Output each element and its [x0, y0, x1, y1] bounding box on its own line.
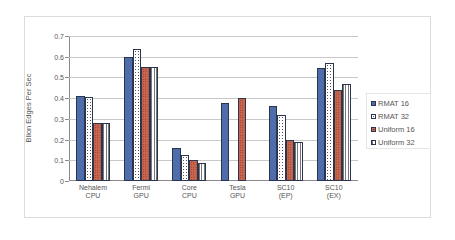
legend-swatch-icon [371, 114, 376, 119]
legend-label: Uniform 32 [378, 138, 415, 147]
y-axis [69, 36, 70, 181]
y-tick-label: 0.7 [54, 33, 64, 40]
legend-label: RMAT 16 [378, 99, 409, 108]
x-tick-label-line: Tesla [214, 184, 262, 192]
legend-item: Uniform 32 [371, 136, 430, 149]
y-tick-label: 0.2 [54, 136, 64, 143]
bar-rmat-16 [124, 57, 133, 181]
bar-rmat-32 [277, 115, 286, 181]
x-tick-label-line: Fermi [117, 184, 165, 192]
x-axis [69, 180, 358, 181]
y-tick [65, 119, 69, 120]
legend-item: Uniform 16 [371, 123, 430, 136]
bar-uniform-32 [294, 142, 303, 181]
bar-rmat-32 [181, 155, 190, 181]
y-tick [65, 160, 69, 161]
bar-uniform-16 [141, 67, 150, 181]
y-tick-label: 0.6 [54, 53, 64, 60]
bar-uniform-32 [198, 163, 207, 181]
gridline [69, 36, 358, 37]
gridline [69, 77, 358, 78]
y-tick [65, 140, 69, 141]
bar-uniform-32 [150, 67, 159, 181]
bar-uniform-32 [342, 84, 351, 181]
x-tick-label-line: Nehalem [69, 184, 117, 192]
legend-item: RMAT 16 [371, 97, 430, 110]
x-tick-label-line: (EP) [262, 192, 310, 200]
legend-swatch-icon [371, 140, 376, 145]
bar-uniform-16 [93, 123, 102, 181]
y-tick [65, 36, 69, 37]
y-tick-label: 0.1 [54, 157, 64, 164]
legend: RMAT 16RMAT 32Uniform 16Uniform 32 [366, 93, 431, 149]
y-tick [65, 181, 69, 182]
x-tick-label-line: Core [165, 184, 213, 192]
legend-item: RMAT 32 [371, 110, 430, 123]
bar-uniform-16 [238, 98, 247, 181]
x-tick-label-line: CPU [165, 192, 213, 200]
x-tick-label-line: SC10 [310, 184, 358, 192]
y-tick-label: 0.5 [54, 74, 64, 81]
bar-rmat-16 [221, 103, 230, 181]
legend-swatch-icon [371, 127, 376, 132]
y-tick-label: 0.4 [54, 95, 64, 102]
y-tick [65, 57, 69, 58]
y-axis-title: Blion Edges Per Sec [24, 74, 33, 143]
y-tick-label: 0 [60, 178, 64, 185]
x-tick-label: CoreCPU [165, 184, 213, 200]
x-tick-label-line: SC10 [262, 184, 310, 192]
gridline [69, 119, 358, 120]
x-tick-label-line: GPU [214, 192, 262, 200]
legend-label: RMAT 32 [378, 112, 409, 121]
gridline [69, 57, 358, 58]
y-tick [65, 77, 69, 78]
bar-rmat-32 [133, 49, 142, 181]
x-tick-label: NehalemCPU [69, 184, 117, 200]
x-tick-label: FermiGPU [117, 184, 165, 200]
gridline [69, 160, 358, 161]
bar-rmat-32 [325, 63, 334, 181]
x-tick-label: SC10(EX) [310, 184, 358, 200]
x-tick-label-line: GPU [117, 192, 165, 200]
x-tick-label-line: CPU [69, 192, 117, 200]
bar-rmat-16 [317, 68, 326, 181]
plot-area [69, 36, 358, 181]
y-tick [65, 98, 69, 99]
y-tick-label: 0.3 [54, 115, 64, 122]
legend-swatch-icon [371, 101, 376, 106]
gridline [69, 98, 358, 99]
bar-uniform-16 [189, 160, 198, 181]
bar-uniform-16 [286, 140, 295, 181]
bar-rmat-16 [76, 96, 85, 181]
x-tick-label: TeslaGPU [214, 184, 262, 200]
gridline [69, 140, 358, 141]
bar-uniform-32 [102, 123, 111, 181]
bar-rmat-16 [172, 148, 181, 181]
x-tick-label: SC10(EP) [262, 184, 310, 200]
bar-rmat-32 [85, 97, 94, 181]
bar-uniform-16 [334, 90, 343, 181]
legend-label: Uniform 16 [378, 125, 415, 134]
x-tick-label-line: (EX) [310, 192, 358, 200]
bar-rmat-16 [269, 106, 278, 181]
